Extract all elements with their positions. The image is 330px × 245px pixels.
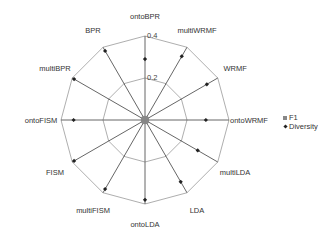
diversity-marker [103, 187, 107, 191]
axis-spoke [72, 120, 145, 162]
axis-spoke [145, 120, 218, 162]
axis-label-multiwrmf: multiWRMF [177, 26, 217, 35]
axis-label-multifism: multiFISM [76, 206, 110, 215]
diversity-marker [205, 82, 209, 86]
r-tick-label: 0.2 [147, 73, 157, 82]
axis-label-bpr: BPR [85, 26, 101, 35]
axis-label-lda: LDA [190, 206, 205, 215]
legend-label: F1 [289, 113, 298, 122]
axis-label-multibpr: multiBPR [39, 64, 71, 73]
radar-tick-labels: 0.20.4 [147, 31, 157, 82]
axis-label-ontobpr: ontoBPR [130, 12, 161, 21]
radar-chart: 0.20.4 ontoBPRmultiWRMFWRMFontoWRMFmulti… [0, 0, 330, 245]
diversity-marker [143, 57, 147, 61]
diamond-marker-icon [283, 124, 287, 128]
axis-spoke [145, 47, 187, 120]
axis-label-multilda: multiLDA [220, 168, 250, 177]
f1-marker [142, 116, 146, 120]
axis-label-wrmf: WRMF [223, 64, 247, 73]
r-tick-label: 0.4 [147, 31, 157, 40]
diversity-marker [180, 54, 184, 58]
diversity-marker [179, 180, 183, 184]
axis-spoke [103, 120, 145, 193]
axis-spoke [103, 47, 145, 120]
diversity-marker [204, 118, 208, 122]
axis-label-ontowrmf: ontoWRMF [230, 116, 268, 125]
legend-item-diversity: Diversity [283, 122, 318, 131]
diversity-marker [71, 118, 75, 122]
diversity-marker [103, 49, 107, 53]
legend-item-f1: F1 [283, 113, 318, 122]
axis-label-ontofism: ontoFISM [25, 116, 58, 125]
diversity-marker [143, 198, 147, 202]
diversity-marker [196, 148, 200, 152]
axis-spoke [72, 78, 145, 120]
legend-label: Diversity [289, 122, 318, 131]
axis-label-fism: FISM [46, 168, 64, 177]
radar-series [71, 49, 208, 202]
square-marker-icon [283, 116, 287, 120]
legend: F1 Diversity [283, 113, 318, 131]
axis-label-ontolda: ontoLDA [130, 220, 159, 229]
